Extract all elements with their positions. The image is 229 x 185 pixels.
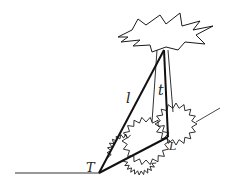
thin-string-left — [152, 50, 157, 122]
thick-line-t — [164, 50, 168, 137]
label-l: l — [126, 90, 130, 106]
starburst-top — [118, 13, 213, 52]
label-L: L — [168, 140, 176, 153]
slope-line — [196, 108, 220, 122]
label-T: T — [86, 160, 96, 175]
diagram-canvas: l t T L — [0, 0, 229, 185]
label-t: t — [158, 82, 164, 98]
zigzag-circle-bottom — [123, 161, 156, 175]
thin-string-right — [168, 50, 173, 112]
thick-line-l — [99, 50, 164, 173]
zigzag-circle-right — [155, 103, 197, 145]
